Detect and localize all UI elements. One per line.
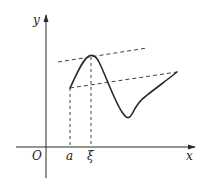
xi-label: ξ bbox=[87, 149, 95, 163]
tangent-line bbox=[58, 48, 147, 62]
y-axis-label: y bbox=[32, 13, 40, 27]
curve bbox=[70, 55, 177, 117]
secant-line bbox=[70, 72, 177, 88]
origin-label: O bbox=[32, 149, 42, 163]
mean-value-diagram: y x O a ξ bbox=[0, 0, 203, 188]
x-axis-label: x bbox=[186, 149, 193, 163]
a-label: a bbox=[66, 149, 73, 163]
